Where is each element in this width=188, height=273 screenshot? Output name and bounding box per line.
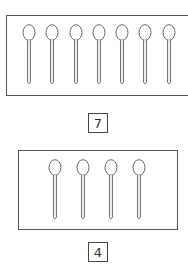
spoon-icon [22,24,36,90]
spoon-icon [45,24,59,90]
group-2-count-label: 4 [94,245,102,260]
spoon-icon [115,24,129,90]
spoon-icon [162,24,176,90]
group-2-box [18,150,178,230]
group-2-count-box: 4 [88,242,108,262]
spoon-icon [104,159,118,225]
group-1-count-label: 7 [94,116,102,131]
group-1-count-box: 7 [88,113,108,133]
spoon-icon [48,159,62,225]
spoon-icon [69,24,83,90]
spoon-icon [132,159,146,225]
spoon-icon [76,159,90,225]
spoon-icon [138,24,152,90]
spoon-icon [92,24,106,90]
